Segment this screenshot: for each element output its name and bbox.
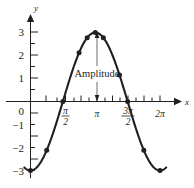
- x-tick-label-pi: π: [95, 109, 100, 119]
- x-axis-arrowhead: [174, 98, 182, 105]
- amplitude-annotation: Amplitude: [75, 32, 120, 102]
- y-tick-label-neg3: −3: [12, 165, 24, 177]
- x-tick-label-pi-over-2-numerator: π: [63, 106, 68, 116]
- y-tick-label-1: 1: [19, 72, 25, 84]
- amplitude-arrow-down-head: [95, 95, 100, 102]
- x-tick-label-pi-over-2-denominator: 2: [63, 117, 68, 127]
- y-tick-label-0: 0: [19, 105, 25, 117]
- data-point: [60, 99, 65, 104]
- axes-group: [6, 14, 182, 178]
- x-tick-label-2pi: 2π: [155, 109, 165, 119]
- data-point: [141, 148, 146, 153]
- data-point: [85, 35, 90, 40]
- x-axis-label: x: [184, 97, 189, 107]
- data-point: [44, 148, 49, 153]
- data-point: [125, 99, 130, 104]
- trig-graph-figure: y x 3 2 1 0 −1 −2 −3 π 2 π 3π 2 2π: [0, 0, 194, 188]
- y-axis-label: y: [33, 3, 38, 13]
- y-tick-label-neg2: −2: [12, 142, 24, 154]
- y-tick-label-2: 2: [19, 49, 25, 61]
- data-point: [28, 168, 33, 173]
- x-tick-labels: π 2 π 3π 2 2π: [62, 106, 165, 127]
- y-axis-arrowhead: [27, 14, 34, 22]
- data-point: [101, 35, 106, 40]
- y-tick-label-neg1: −1: [12, 119, 24, 131]
- x-tick-label-pi-over-2: π 2: [62, 106, 70, 127]
- data-point: [77, 50, 82, 55]
- data-point: [158, 168, 163, 173]
- amplitude-label: Amplitude: [75, 68, 120, 79]
- y-tick-label-3: 3: [19, 26, 25, 38]
- x-tick-label-3pi-over-2-denominator: 2: [126, 117, 131, 127]
